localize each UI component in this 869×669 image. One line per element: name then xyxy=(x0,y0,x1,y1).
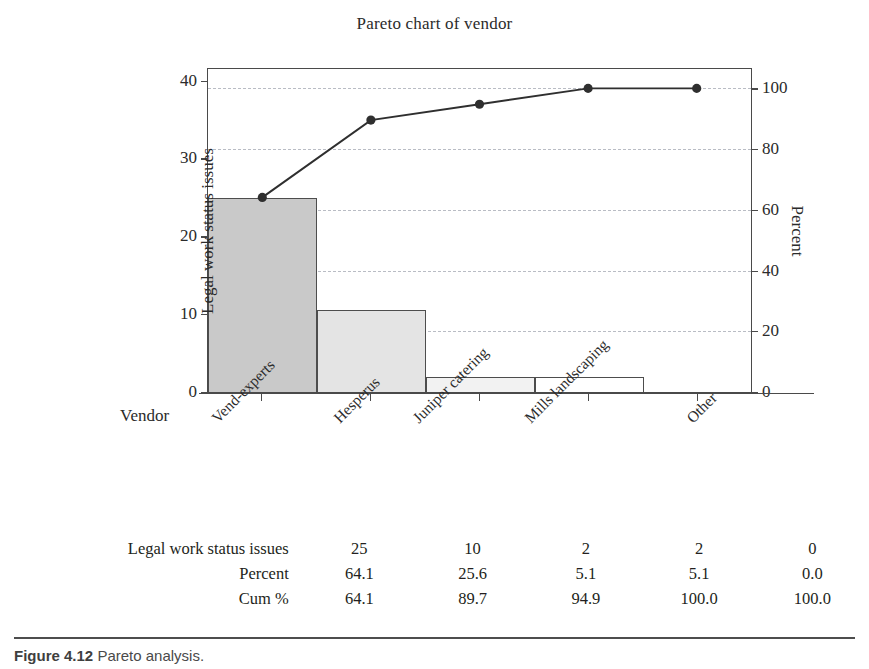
cell-percent-1: 64.1 xyxy=(303,561,416,586)
cell-percent-2: 25.6 xyxy=(416,561,529,586)
ytick-label-right-20: 20 xyxy=(762,321,779,341)
cum-marker-2 xyxy=(366,116,375,125)
figure-caption: Figure 4.12 Pareto analysis. xyxy=(14,647,204,664)
cum-marker-4 xyxy=(584,84,593,93)
ytick-label-left-30: 30 xyxy=(180,148,197,168)
table-row: Legal work status issues 25 10 2 2 0 xyxy=(0,536,869,561)
ytick-label-right-0: 0 xyxy=(762,382,771,402)
y2-axis-title: Percent xyxy=(787,81,807,381)
figure-caption-text: Pareto analysis. xyxy=(97,647,204,664)
chart-title: Pareto chart of vendor xyxy=(0,14,869,34)
cell-cum-1: 64.1 xyxy=(303,587,416,612)
pareto-data-table: Legal work status issues 25 10 2 2 0 Per… xyxy=(0,536,869,612)
table-row: Cum % 64.1 89.7 94.9 100.0 100.0 xyxy=(0,587,869,612)
ytick-label-left-10: 10 xyxy=(180,304,197,324)
ytick-label-right-80: 80 xyxy=(762,139,779,159)
row-label-cum-percent: Cum % xyxy=(0,587,303,612)
xtick-4 xyxy=(588,393,589,401)
ytick-label-left-0: 0 xyxy=(189,382,198,402)
cell-percent-5: 0.0 xyxy=(756,561,869,586)
ytick-right-40 xyxy=(751,271,758,272)
x-axis-title: Vendor xyxy=(120,406,169,426)
ytick-right-60 xyxy=(751,210,758,211)
row-label-percent: Percent xyxy=(0,561,303,586)
figure-caption-label: Figure 4.12 xyxy=(14,647,93,664)
ytick-label-right-60: 60 xyxy=(762,200,779,220)
cum-marker-1 xyxy=(258,193,267,202)
xtick-3 xyxy=(479,393,480,401)
cell-count-4: 2 xyxy=(642,536,755,561)
cell-cum-4: 100.0 xyxy=(642,587,755,612)
cell-count-5: 0 xyxy=(756,536,869,561)
ytick-label-right-100: 100 xyxy=(762,78,788,98)
ytick-right-80 xyxy=(751,149,758,150)
cell-count-1: 25 xyxy=(303,536,416,561)
table-row: Percent 64.1 25.6 5.1 5.1 0.0 xyxy=(0,561,869,586)
ytick-right-20 xyxy=(751,331,758,332)
cell-cum-3: 94.9 xyxy=(529,587,642,612)
cum-marker-3 xyxy=(475,100,484,109)
cell-cum-5: 100.0 xyxy=(756,587,869,612)
cell-count-3: 2 xyxy=(529,536,642,561)
caption-divider xyxy=(14,637,855,639)
x-axis-line xyxy=(199,393,814,394)
cell-count-2: 10 xyxy=(416,536,529,561)
xtick-1 xyxy=(261,393,262,401)
cum-marker-5 xyxy=(692,84,701,93)
row-label-count: Legal work status issues xyxy=(0,536,303,561)
cell-percent-3: 5.1 xyxy=(529,561,642,586)
ytick-label-left-40: 40 xyxy=(180,71,197,91)
ytick-label-left-20: 20 xyxy=(180,226,197,246)
y-axis-title: Legal work status issues xyxy=(198,81,218,381)
cell-cum-2: 89.7 xyxy=(416,587,529,612)
ytick-label-right-40: 40 xyxy=(762,261,779,281)
x-category-label-5: Other xyxy=(683,389,721,427)
cell-percent-4: 5.1 xyxy=(642,561,755,586)
ytick-right-100 xyxy=(751,88,758,89)
pareto-figure: Pareto chart of vendor 40 30 xyxy=(0,0,869,669)
